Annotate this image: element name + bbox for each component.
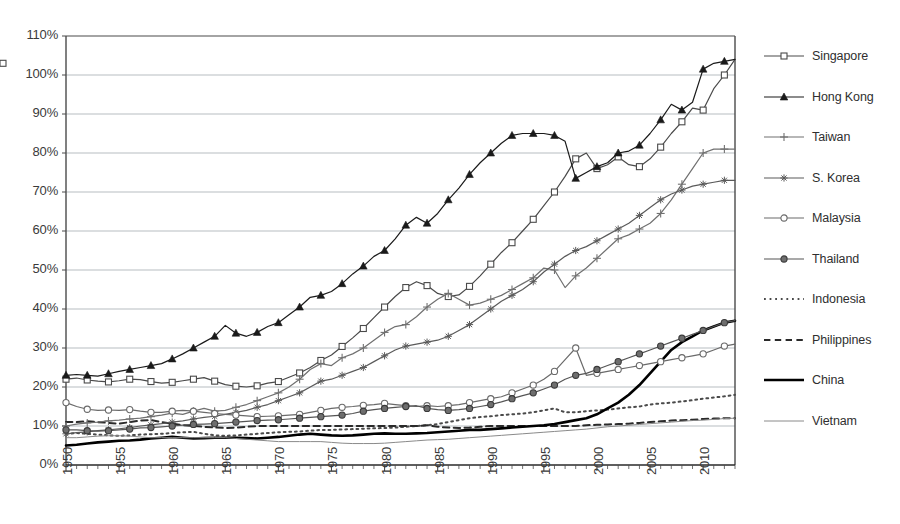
y-axis-tick-label: 50% (6, 261, 58, 276)
legend-item-thailand[interactable]: Thailand (762, 239, 900, 280)
legend-label: Taiwan (812, 130, 850, 144)
x-axis-tick-label: 2000 (591, 447, 606, 475)
x-axis-tick-label: 2005 (644, 447, 659, 475)
legend-item-singapore[interactable]: Singapore (762, 36, 900, 77)
y-axis-tick-label: 20% (6, 378, 58, 393)
legend-label: Philippines (812, 333, 871, 347)
legend-item-malaysia[interactable]: Malaysia (762, 198, 900, 239)
legend-item-china[interactable]: China (762, 360, 900, 401)
x-axis-tick-label: 1995 (538, 447, 553, 475)
legend-item-vietnam[interactable]: Vietnam (762, 401, 900, 442)
x-axis-tick-label: 1965 (219, 447, 234, 475)
legend-item-s-korea[interactable]: S. Korea (762, 158, 900, 199)
legend-item-taiwan[interactable]: Taiwan (762, 117, 900, 158)
y-axis-tick-label: 70% (6, 183, 58, 198)
legend-item-indonesia[interactable]: Indonesia (762, 279, 900, 320)
chart-legend: SingaporeHong KongTaiwanS. KoreaMalaysia… (762, 36, 900, 441)
legend-label: China (812, 373, 844, 387)
legend-label: Singapore (812, 49, 868, 63)
legend-line-sample (762, 129, 806, 145)
y-axis-tick-label: 90% (6, 105, 58, 120)
legend-label: Vietnam (812, 414, 857, 428)
legend-item-philippines[interactable]: Philippines (762, 320, 900, 361)
legend-line-sample (762, 332, 806, 348)
y-axis-tick-label: 60% (6, 222, 58, 237)
y-axis-tick-label: 30% (6, 339, 58, 354)
line-chart-svg (0, 0, 760, 524)
chart-plot-area: 0%10%20%30%40%50%60%70%80%90%100%110% 19… (0, 0, 760, 524)
legend-item-hong-kong[interactable]: Hong Kong (762, 77, 900, 118)
legend-line-sample (762, 48, 806, 64)
x-axis-tick-label: 1980 (379, 447, 394, 475)
x-axis-tick-label: 2010 (697, 447, 712, 475)
y-axis-tick-label: 0% (6, 456, 58, 471)
x-axis-tick-label: 1975 (325, 447, 340, 475)
y-axis-tick-label: 80% (6, 144, 58, 159)
legend-line-sample (762, 251, 806, 267)
legend-label: Malaysia (812, 211, 861, 225)
legend-line-sample (762, 372, 806, 388)
y-axis-tick-label: 110% (6, 27, 58, 42)
chart-root: 0%10%20%30%40%50%60%70%80%90%100%110% 19… (0, 0, 900, 524)
y-axis-tick-label: 100% (6, 66, 58, 81)
legend-label: Hong Kong (812, 90, 874, 104)
legend-line-sample (762, 291, 806, 307)
x-axis-tick-label: 1950 (60, 447, 75, 475)
x-axis-tick-label: 1970 (272, 447, 287, 475)
x-axis-tick-label: 1955 (113, 447, 128, 475)
x-axis-tick-label: 1960 (166, 447, 181, 475)
legend-line-sample (762, 89, 806, 105)
legend-line-sample (762, 170, 806, 186)
y-axis-tick-label: 10% (6, 417, 58, 432)
x-axis-tick-label: 1990 (485, 447, 500, 475)
x-axis-tick-label: 1985 (432, 447, 447, 475)
legend-label: Thailand (812, 252, 859, 266)
legend-label: S. Korea (812, 171, 860, 185)
legend-line-sample (762, 413, 806, 429)
legend-label: Indonesia (812, 292, 865, 306)
y-axis-tick-label: 40% (6, 300, 58, 315)
legend-line-sample (762, 210, 806, 226)
